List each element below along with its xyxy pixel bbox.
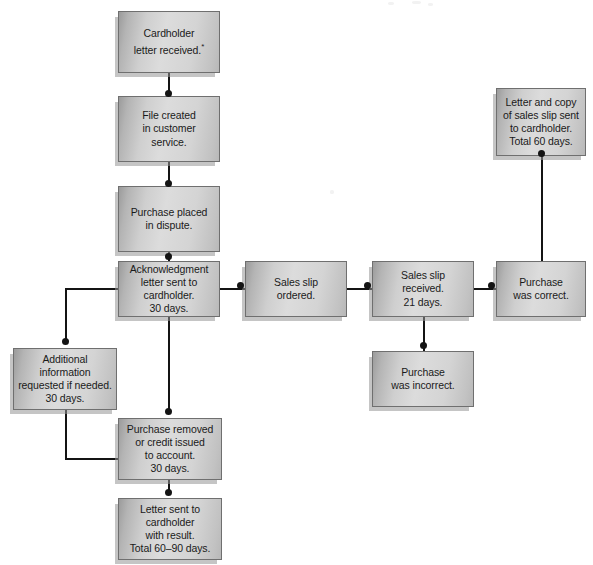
conn-acknowledgment-to-additional-endpoint-dot [62,338,69,345]
node-letter-and-copy-of-sales-slip[interactable]: Letter and copy of sales slip sent to ca… [496,88,586,156]
node-purchase-was-correct[interactable]: Purchase was correct. [496,261,586,317]
scan-artifact [412,1,421,4]
scan-artifact [388,2,394,5]
node-letter-sent-with-result[interactable]: Letter sent to cardholder with result. T… [118,498,222,560]
conn-received-to-correct-endpoint-dot [488,282,495,289]
node-cardholder-letter-received[interactable]: Cardholder letter received.* [118,11,220,73]
node-additional-information-label: Additional information requested if need… [15,353,115,406]
node-purchase-was-incorrect-label: Purchase was incorrect. [388,366,457,392]
conn-salesslip-to-received-endpoint-dot [364,282,371,289]
node-sales-slip-ordered[interactable]: Sales slip ordered. [245,261,347,317]
conn-additional-to-removed-segment-1 [65,458,119,460]
scan-artifact [428,3,433,6]
node-file-created[interactable]: File created in customer service. [118,96,220,162]
conn-acknowledgment-to-removed-segment-0 [168,317,170,412]
node-additional-information[interactable]: Additional information requested if need… [13,348,117,410]
node-letter-and-copy-of-sales-slip-label: Letter and copy of sales slip sent to ca… [500,96,582,149]
node-purchase-placed-in-dispute[interactable]: Purchase placed in dispute. [118,186,220,252]
conn-received-to-incorrect-endpoint-dot [420,342,427,349]
node-letter-sent-with-result-label: Letter sent to cardholder with result. T… [127,503,214,556]
conn-correct-to-lettercopy-segment-0 [541,156,543,261]
scan-artifact [330,190,334,194]
node-cardholder-letter-received-footnote-marker: * [201,42,204,51]
node-sales-slip-received-label: Sales slip received. 21 days. [398,269,448,309]
conn-file-to-dispute-endpoint-dot [165,180,172,187]
node-acknowledgment-letter[interactable]: Acknowledgment letter sent to cardholder… [118,261,220,317]
conn-acknowledgment-to-removed-endpoint-dot [165,408,172,415]
node-sales-slip-ordered-label: Sales slip ordered. [271,276,321,302]
node-purchase-removed[interactable]: Purchase removed or credit issued to acc… [118,418,222,480]
node-file-created-label: File created in customer service. [139,109,199,149]
node-purchase-placed-in-dispute-label: Purchase placed in dispute. [128,206,211,232]
conn-acknowledgment-to-salesslip-endpoint-dot [237,282,244,289]
node-sales-slip-received[interactable]: Sales slip received. 21 days. [372,261,474,317]
conn-acknowledgment-to-additional-segment-1 [65,288,67,343]
node-acknowledgment-letter-label: Acknowledgment letter sent to cardholder… [127,263,212,316]
node-purchase-removed-label: Purchase removed or credit issued to acc… [124,423,217,476]
flowchart-canvas: Cardholder letter received.*File created… [0,0,593,565]
conn-removed-to-letterresult-endpoint-dot [165,489,172,496]
conn-cardholder-to-file-endpoint-dot [165,90,172,97]
node-cardholder-letter-received-label: Cardholder letter received.* [131,27,207,57]
conn-additional-to-removed-segment-0 [65,410,67,459]
conn-correct-to-lettercopy-endpoint-dot [538,150,545,157]
conn-dispute-to-acknowledgment-endpoint-dot [165,253,172,260]
node-purchase-was-incorrect[interactable]: Purchase was incorrect. [372,351,474,407]
node-purchase-was-correct-label: Purchase was correct. [510,276,571,302]
conn-acknowledgment-to-additional-segment-0 [65,288,119,290]
